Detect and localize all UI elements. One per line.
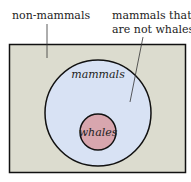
venn-diagram: non-mammals mammals that are not whales …: [0, 0, 191, 182]
mammals-label: mammals: [71, 68, 125, 81]
ring-label-line1: mammals that: [112, 9, 191, 22]
whales-label: whales: [79, 126, 118, 139]
non-mammals-label: non-mammals: [12, 9, 90, 22]
ring-label-line2: are not whales: [112, 23, 191, 36]
